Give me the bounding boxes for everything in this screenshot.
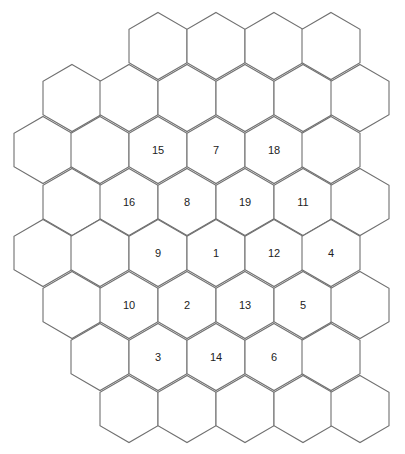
- hex-label: 6: [271, 351, 277, 363]
- hex-label: 12: [268, 247, 280, 259]
- hex-label: 1: [213, 247, 219, 259]
- hex-label: 9: [155, 247, 161, 259]
- hex-label: 16: [123, 196, 135, 208]
- hex-grid-diagram: 157181681911911241021353146: [0, 0, 405, 454]
- hex-label: 8: [184, 196, 190, 208]
- hex-label: 13: [239, 299, 251, 311]
- hex-label: 7: [213, 144, 219, 156]
- hex-label: 11: [297, 196, 308, 208]
- hex-label: 5: [300, 299, 306, 311]
- hex-label: 14: [210, 351, 222, 363]
- hex-label: 2: [184, 299, 190, 311]
- hex-label: 18: [268, 144, 280, 156]
- hex-label: 19: [239, 196, 251, 208]
- hex-label: 10: [123, 299, 135, 311]
- hex-label: 15: [152, 144, 164, 156]
- hex-label: 3: [155, 351, 161, 363]
- hex-label: 4: [328, 247, 334, 259]
